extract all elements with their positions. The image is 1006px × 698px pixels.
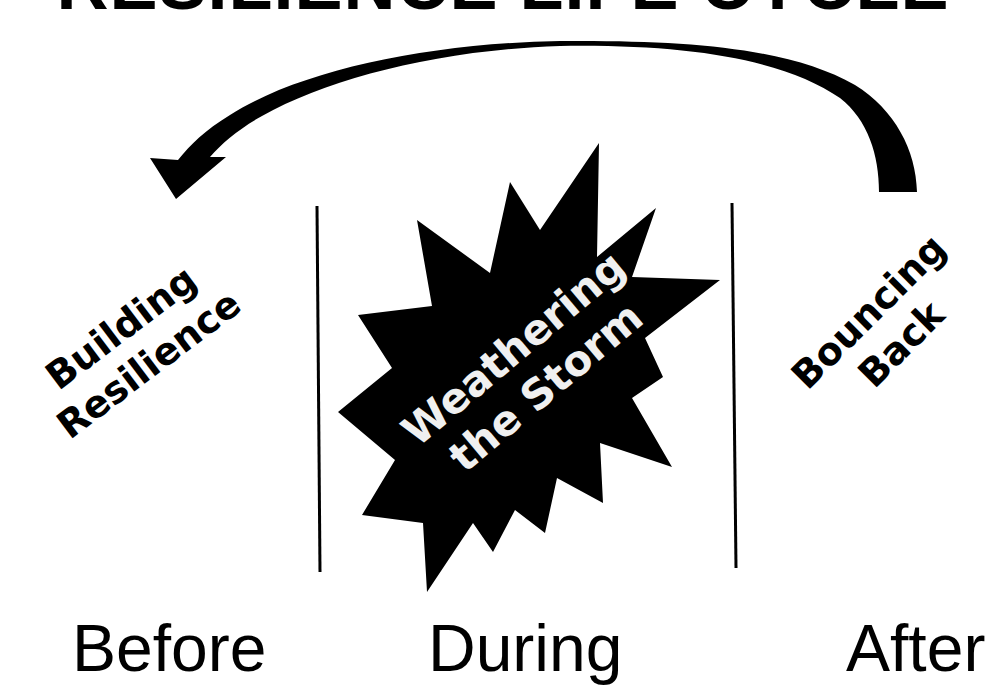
phase-caption-during: During	[428, 608, 622, 688]
curved-arrow-icon	[150, 41, 917, 199]
phase-caption-before: Before	[72, 608, 266, 688]
divider-during-after	[732, 203, 736, 568]
divider-before-during	[317, 206, 320, 572]
phase-caption-after: After	[846, 608, 985, 688]
